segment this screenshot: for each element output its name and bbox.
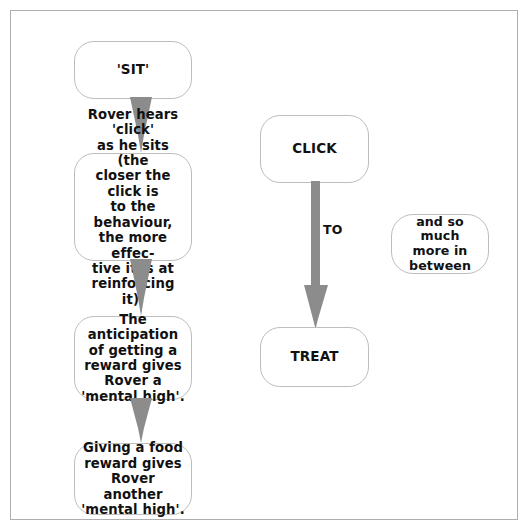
node-giving-food-reward-label: Giving a food reward gives Rover another…: [81, 440, 185, 517]
node-click[interactable]: CLICK: [260, 115, 369, 183]
node-giving-food-reward[interactable]: Giving a food reward gives Rover another…: [74, 443, 192, 515]
arrow-click-to-treat: [300, 181, 332, 329]
node-anticipation[interactable]: The anticipation of getting a reward giv…: [74, 316, 192, 400]
diagram-frame: 'SIT' Rover hears 'click' as he sits (th…: [10, 10, 518, 520]
node-rover-hears-click[interactable]: Rover hears 'click' as he sits (the clos…: [74, 153, 192, 261]
diagram-canvas: 'SIT' Rover hears 'click' as he sits (th…: [0, 0, 530, 531]
node-sit[interactable]: 'SIT': [74, 41, 192, 99]
node-click-label: CLICK: [292, 141, 336, 157]
node-and-so-much-more-in-between[interactable]: and so much more in between: [391, 214, 489, 274]
node-sit-label: 'SIT': [117, 62, 150, 78]
node-and-so-much-more-in-between-label: and so much more in between: [398, 215, 482, 274]
node-anticipation-label: The anticipation of getting a reward giv…: [81, 312, 185, 405]
edge-label-to: TO: [323, 222, 343, 237]
node-treat[interactable]: TREAT: [260, 327, 369, 387]
arrow-anticipation-to-giving-food: [119, 398, 163, 443]
node-treat-label: TREAT: [291, 349, 339, 365]
arrow-rover-hears-to-anticipation: [119, 259, 163, 316]
